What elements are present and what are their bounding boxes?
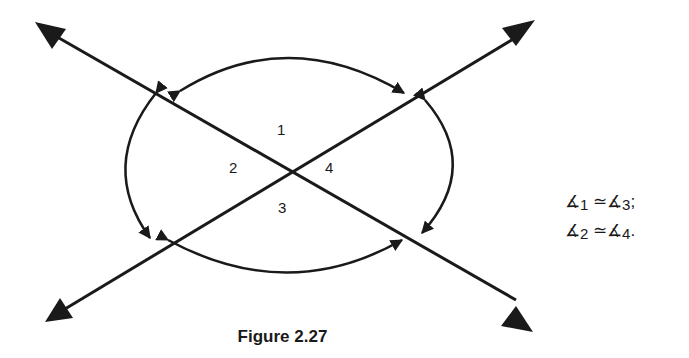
figure-2-27: 1 2 3 4 ∡1 ≃∡3; ∡2 ≃∡4. Figure 2.27 (0, 0, 689, 358)
congruent-symbol-icon: ≃ (593, 192, 607, 211)
angle-label-4: 4 (325, 160, 333, 175)
angle-symbol-icon: ∡ (607, 221, 622, 240)
congruent-symbol-icon: ≃ (593, 221, 607, 240)
vertical-angles-diagram (0, 0, 689, 358)
arc-angle-1 (180, 58, 404, 93)
angle-label-1: 1 (277, 122, 285, 137)
angle-label-2: 2 (229, 160, 237, 175)
arc-angle-4 (422, 100, 453, 233)
arrowhead-upper-left-icon (35, 22, 66, 49)
arrowhead-lower-left-icon (45, 298, 73, 322)
arc-angle-3 (168, 240, 402, 273)
angle-symbol-icon: ∡ (607, 192, 622, 211)
angle-symbol-icon: ∡ (565, 192, 580, 211)
angle-label-3: 3 (278, 200, 286, 215)
angle-symbol-icon: ∡ (565, 221, 580, 240)
congruence-statement-1: ∡1 ≃∡3; (565, 193, 635, 210)
arc-angle-2 (125, 93, 156, 238)
angle-arcs (125, 58, 452, 273)
congruence-statement-2: ∡2 ≃∡4. (565, 222, 635, 239)
figure-caption: Figure 2.27 (0, 327, 565, 347)
